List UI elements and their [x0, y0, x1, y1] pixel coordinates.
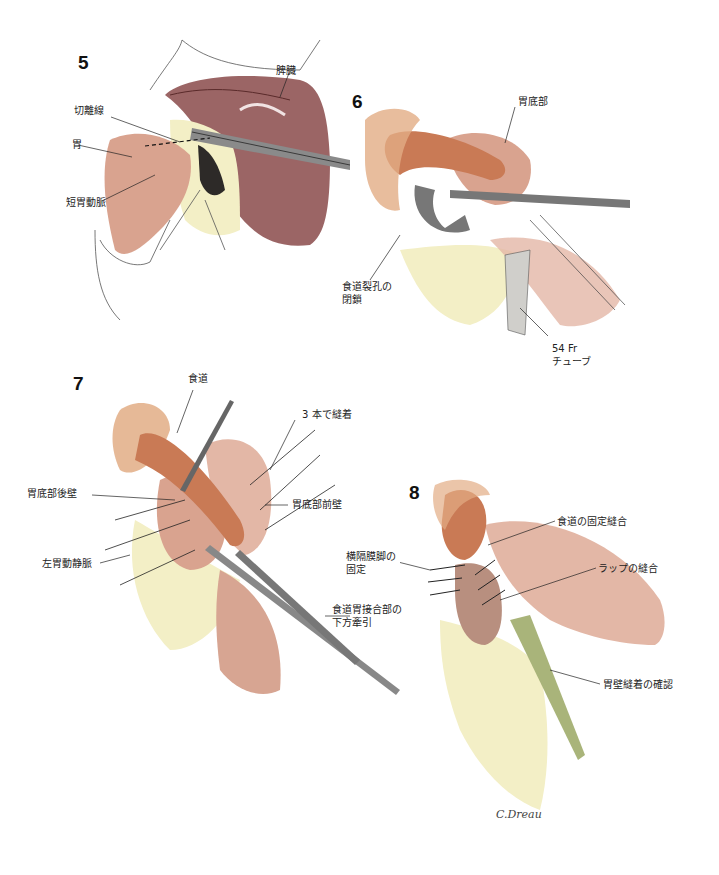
- panel-6-number: 6: [352, 91, 363, 113]
- label-hiatus-closure: 食道裂孔の 閉鎖: [342, 280, 392, 306]
- label-three-sutures: 3 本で縫着: [302, 408, 352, 421]
- label-54fr-tube: 54 Fr チューブ: [552, 342, 591, 368]
- panel-8-number: 8: [409, 482, 420, 504]
- label-short-gastric-artery: 短胃動脈: [66, 196, 106, 209]
- label-spleen: 脾臓: [276, 64, 296, 77]
- label-hiatus-closure-line2: 閉鎖: [342, 293, 392, 306]
- label-fundus: 胃底部: [518, 95, 548, 108]
- panel-8: 8 食道の固定縫合 ラップの縫合 胃壁縫着の確認: [400, 470, 719, 870]
- label-esophageal-fixation-suture: 食道の固定縫合: [557, 515, 627, 528]
- label-crus-fixation-line1: 横隔膜脚の: [346, 550, 396, 563]
- panel-5-number: 5: [78, 52, 89, 74]
- label-crus-fixation: 横隔膜脚の 固定: [346, 550, 396, 576]
- label-gej-traction-line2: 下方牽引: [332, 616, 402, 629]
- label-left-gastric-vessels: 左胃動静脈: [42, 557, 92, 570]
- panel-8-illustration: [400, 470, 719, 870]
- panel-5-illustration: [0, 0, 360, 360]
- label-gastric-wall-suture-check: 胃壁縫着の確認: [603, 678, 673, 691]
- label-hiatus-closure-line1: 食道裂孔の: [342, 280, 392, 293]
- label-esophagus: 食道: [188, 372, 208, 385]
- label-fundus-posterior-wall: 胃底部後壁: [27, 487, 77, 500]
- panel-5: 5 脾臓 切離線 胃 短胃動脈: [0, 0, 360, 360]
- label-tube-line1: 54 Fr: [552, 342, 591, 355]
- label-cut-line: 切離線: [74, 104, 104, 117]
- label-fundus-anterior-wall: 胃底部前壁: [292, 498, 342, 511]
- label-stomach: 胃: [72, 138, 82, 151]
- panel-7-number: 7: [73, 373, 84, 395]
- label-gej-traction: 食道胃接合部の 下方牽引: [332, 603, 402, 629]
- panel-6: 6 胃底部 食道裂孔の 閉鎖 54 Fr チューブ: [340, 80, 719, 380]
- label-crus-fixation-line2: 固定: [346, 563, 396, 576]
- artist-signature: C.Dreau: [496, 808, 542, 821]
- label-gej-traction-line1: 食道胃接合部の: [332, 603, 402, 616]
- label-tube-line2: チューブ: [552, 355, 591, 368]
- panel-6-illustration: [340, 80, 719, 380]
- label-wrap-suture: ラップの縫合: [598, 562, 658, 575]
